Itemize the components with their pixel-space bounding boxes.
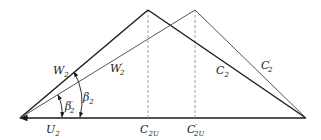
beta2-arc <box>74 72 82 117</box>
w2-prime-vector <box>20 10 195 118</box>
label-w2: W2 <box>53 64 69 79</box>
label-u2: U2 <box>46 123 60 138</box>
label-w2-prime: W′2 <box>110 62 125 77</box>
label-c2u-prime: C′2U <box>187 123 205 138</box>
label-c2-prime: C′2 <box>261 59 273 74</box>
label-beta2-prime: β′2 <box>64 100 75 115</box>
c2-vector <box>148 10 306 118</box>
c2-prime-vector <box>195 10 306 118</box>
velocity-triangle-diagram: W2 W′2 C2 C′2 U2 C2U C′2U β2 β′2 <box>0 0 321 140</box>
label-c2u: C2U <box>140 123 160 138</box>
label-beta2: β2 <box>82 91 94 106</box>
beta2-prime-arc <box>58 95 62 117</box>
label-c2: C2 <box>216 64 229 79</box>
